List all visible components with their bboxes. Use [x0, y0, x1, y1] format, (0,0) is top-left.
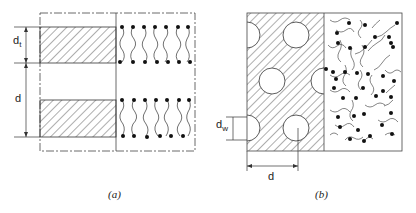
panel-b	[226, 13, 402, 171]
label-d-period-b: d	[268, 170, 274, 182]
bilayer-top-hatched	[40, 27, 116, 63]
caption-a: (a)	[108, 188, 121, 200]
lipid-heads-bottom	[120, 98, 191, 139]
bilayer-bottom-hatched	[40, 100, 116, 137]
panel-a	[14, 13, 195, 151]
lipid-bilayer-top	[120, 27, 189, 62]
label-d-t: dt	[13, 34, 21, 49]
lipid-heads-b	[324, 21, 399, 143]
label-d-period-a: d	[15, 92, 21, 104]
label-d-w: dw	[216, 118, 228, 133]
diagram-canvas	[0, 0, 416, 213]
lipid-bilayer-bottom	[120, 100, 190, 136]
caption-b: (b)	[315, 188, 328, 200]
